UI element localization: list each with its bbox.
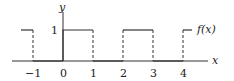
x-axis-label: x (212, 54, 219, 67)
x-tick--1: −1 (25, 67, 41, 80)
y-tick-1: 1 (51, 24, 58, 37)
x-tick-2: 2 (120, 67, 127, 80)
square-wave-plot: y 1 f(x) x −1 0 1 2 3 4 (0, 0, 234, 81)
x-tick-4: 4 (180, 67, 187, 80)
legend-fx: f(x) (196, 23, 216, 36)
x-tick-1: 1 (90, 67, 97, 80)
x-tick-0: 0 (60, 67, 67, 80)
y-axis-label: y (58, 1, 66, 14)
function-curve (21, 30, 192, 61)
x-tick-3: 3 (150, 67, 157, 80)
